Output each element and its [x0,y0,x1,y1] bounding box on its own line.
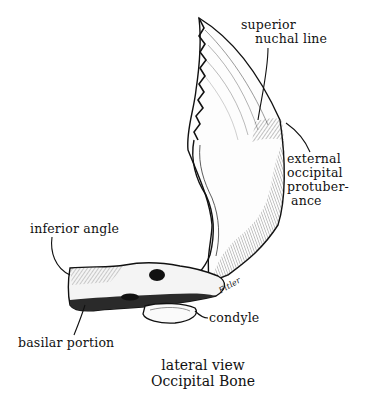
label-nuchal-line: nuchal line [255,32,327,45]
leader-external-occipital-protuberance [286,123,310,152]
label-superior: superior [241,18,296,31]
occipital-bone-figure: superior nuchal line external occipital … [0,0,373,396]
label-external: external [287,152,341,165]
leader-inferior-angle [52,237,70,275]
label-ance: ance [291,194,322,207]
label-basilar-portion: basilar portion [18,336,114,349]
label-protuber: protuber- [287,180,349,193]
label-inferior-angle: inferior angle [30,222,119,235]
caption-title: Occipital Bone [118,373,288,389]
caption-lateral-view: lateral view [128,357,278,373]
label-condyle: condyle [209,311,259,324]
label-occipital: occipital [287,166,343,179]
condyle-shape [143,304,196,324]
